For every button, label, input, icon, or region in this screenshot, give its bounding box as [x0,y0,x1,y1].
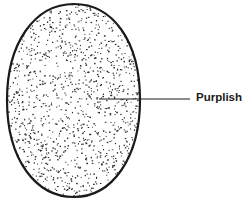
diagram-canvas [0,0,251,206]
label-purplish: Purplish [196,91,242,103]
oval-outline [7,4,140,197]
